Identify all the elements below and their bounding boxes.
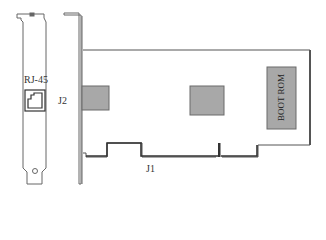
rj45-jack <box>25 90 45 111</box>
rj45-label: RJ-45 <box>24 75 48 85</box>
j2-label: J2 <box>58 96 67 106</box>
edge-connector-j1 <box>86 143 257 157</box>
j1-label: J1 <box>146 164 155 174</box>
rj45-port-block <box>82 86 109 110</box>
controller-chip <box>190 86 224 115</box>
boot-rom-label: BOOT ROM <box>277 70 286 126</box>
